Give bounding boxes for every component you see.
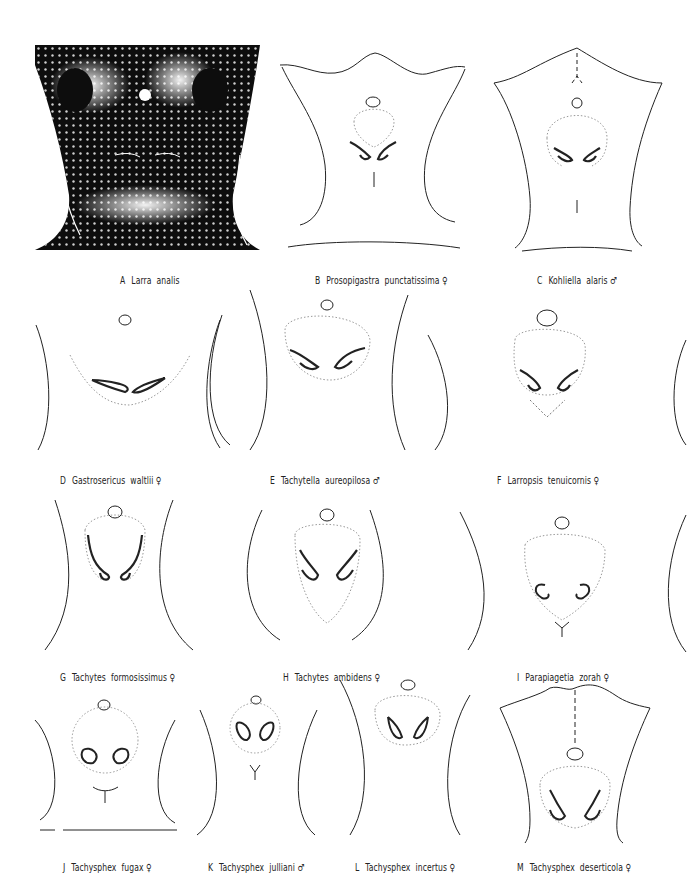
- figure-j-tachysphex-fugax: [35, 695, 185, 840]
- figure-a-larra-analis: [35, 45, 260, 250]
- figure-l-tachysphex-incertus: [340, 675, 490, 840]
- caption-m: MTachysphex deserticola ♀: [512, 851, 631, 873]
- caption-c: CKohliella alaris ♂: [532, 264, 617, 286]
- figure-h-tachytes-ambidens: [240, 505, 420, 655]
- figure-g-drawing: [40, 495, 200, 655]
- figure-e-drawing: [200, 285, 415, 455]
- figure-m-tachysphex-deserticola: [495, 680, 665, 845]
- figure-c-kohliella: [482, 48, 682, 253]
- caption-f: FLarropsis tenuicornis ♀: [492, 464, 599, 486]
- caption-g: GTachytes formosissimus ♀: [55, 661, 175, 683]
- caption-b: BProsopigastra punctatissima ♀: [310, 264, 448, 286]
- caption-j: JTachysphex fugax ♀: [58, 851, 152, 873]
- figure-b-prosopigastra: [270, 55, 470, 250]
- figure-b-drawing: [270, 55, 470, 250]
- figure-h-drawing: [240, 505, 420, 655]
- figure-m-drawing: [495, 680, 665, 845]
- figure-k-tachysphex-julliani: [195, 695, 325, 840]
- figure-i-drawing: [450, 510, 691, 655]
- figure-a-drawing: [35, 45, 260, 250]
- figure-k-drawing: [195, 695, 325, 840]
- figure-j-drawing: [35, 695, 185, 840]
- caption-k: KTachysphex julliani ♂: [203, 851, 304, 873]
- caption-d: DGastrosericus waltlii ♀: [55, 464, 162, 486]
- figure-e-tachytella: [200, 285, 415, 455]
- figure-f-drawing: [420, 285, 691, 455]
- caption-l: LTachysphex incertus ♀: [350, 851, 455, 873]
- figure-l-drawing: [340, 675, 490, 840]
- figure-c-drawing: [482, 48, 682, 253]
- caption-e: ETachytella aureopilosa ♂: [265, 464, 380, 486]
- figure-g-tachytes-formosissimus: [40, 495, 200, 655]
- caption-a: ALarra analis: [115, 264, 179, 286]
- figure-i-parapiagetia: [450, 510, 691, 655]
- figure-f-larropsis: [420, 285, 691, 455]
